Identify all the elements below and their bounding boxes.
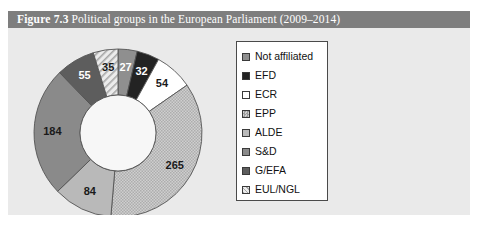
legend-label-eulngl: EUL/NGL: [255, 184, 300, 195]
legend-item-ecr[interactable]: ECR: [242, 85, 327, 104]
slice-value-label: 27: [119, 61, 131, 73]
slice-value-label: 54: [156, 77, 169, 89]
legend-label-alde: ALDE: [255, 127, 282, 138]
slice-value-label: 32: [135, 65, 147, 77]
slice-value-label: 184: [43, 125, 62, 137]
donut-hole: [80, 95, 156, 171]
legend-swatch-ecr: [242, 91, 250, 99]
legend-swatch-epp: [242, 110, 250, 118]
legend-label-efd: EFD: [255, 70, 276, 81]
legend-item-gefa[interactable]: G/EFA: [242, 161, 327, 180]
figure-panel: Figure 7.3 Political groups in the Europ…: [8, 11, 470, 215]
legend-item-eulngl[interactable]: EUL/NGL: [242, 180, 327, 199]
figure-number: Figure 7.3: [17, 13, 69, 25]
legend-swatch-sd: [242, 148, 250, 156]
legend-label-gefa: G/EFA: [255, 165, 286, 176]
donut-chart-svg: 273254265841845535: [8, 28, 238, 215]
legend-item-alde[interactable]: ALDE: [242, 123, 327, 142]
legend-item-efd[interactable]: EFD: [242, 66, 327, 85]
slice-value-label: 35: [102, 61, 114, 73]
legend-item-epp[interactable]: EPP: [242, 104, 327, 123]
legend-item-not-affiliated[interactable]: Not affiliated: [242, 47, 327, 66]
legend-label-not-affiliated: Not affiliated: [255, 51, 313, 62]
slice-value-label: 265: [166, 159, 184, 171]
chart-legend: Not affiliated EFD ECR EPP ALDE S&D G/EF…: [236, 41, 328, 201]
legend-swatch-efd: [242, 72, 250, 80]
page-title: Political groups in the European Parliam…: [72, 13, 341, 25]
legend-item-sd[interactable]: S&D: [242, 142, 327, 161]
slice-value-label: 84: [84, 185, 97, 197]
legend-swatch-alde: [242, 129, 250, 137]
figure-title-bar: Figure 7.3 Political groups in the Europ…: [8, 11, 470, 28]
legend-swatch-gefa: [242, 167, 250, 175]
donut-chart: 273254265841845535: [8, 28, 238, 215]
slice-value-label: 55: [79, 69, 91, 81]
legend-swatch-eulngl: [242, 186, 250, 194]
legend-swatch-not-affiliated: [242, 53, 250, 61]
legend-label-ecr: ECR: [255, 89, 277, 100]
legend-label-sd: S&D: [255, 146, 277, 157]
legend-label-epp: EPP: [255, 108, 276, 119]
